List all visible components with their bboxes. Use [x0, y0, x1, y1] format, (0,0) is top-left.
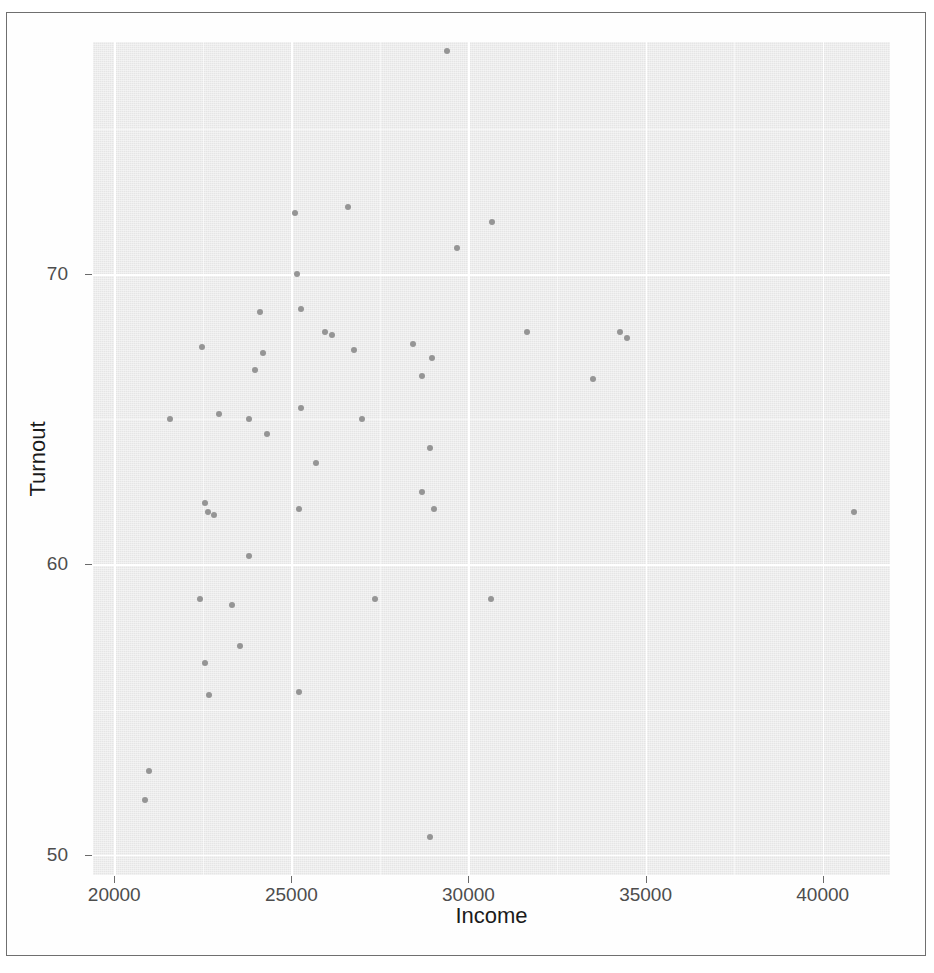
data-point [260, 350, 266, 356]
data-point [167, 416, 173, 422]
data-point [322, 329, 328, 335]
y-tick-mark [85, 564, 92, 565]
y-tick-mark [85, 274, 92, 275]
y-tick-mark [85, 855, 92, 856]
data-point [292, 210, 298, 216]
major-gridline-x [468, 42, 470, 875]
major-gridline-y [93, 855, 890, 857]
minor-gridline-y [93, 710, 890, 711]
y-axis-title: Turnout [20, 42, 54, 875]
major-gridline-y [93, 274, 890, 276]
data-point [296, 689, 302, 695]
major-gridline-x [823, 42, 825, 875]
data-point [429, 355, 435, 361]
data-point [345, 204, 351, 210]
data-point [211, 512, 217, 518]
major-gridline-x [291, 42, 293, 875]
data-point [624, 335, 630, 341]
data-point [427, 445, 433, 451]
data-point [524, 329, 530, 335]
x-tick-mark [114, 876, 115, 883]
data-point [298, 306, 304, 312]
x-tick-mark [291, 876, 292, 883]
minor-gridline-x [203, 42, 204, 875]
data-point [206, 692, 212, 698]
data-point [617, 329, 623, 335]
data-point [419, 489, 425, 495]
plot-panel [93, 42, 890, 875]
data-point [197, 596, 203, 602]
data-point [410, 341, 416, 347]
scanned-page: 2000025000300003500040000 506070 Income … [0, 0, 934, 973]
data-point [298, 405, 304, 411]
panel-paper-texture [93, 42, 890, 875]
data-point [359, 416, 365, 422]
y-axis-title-text: Turnout [24, 421, 50, 496]
x-axis-title: Income [93, 903, 890, 929]
data-point [246, 416, 252, 422]
data-point [419, 373, 425, 379]
minor-gridline-x [557, 42, 558, 875]
minor-gridline-x [734, 42, 735, 875]
data-point [237, 643, 243, 649]
data-point [199, 344, 205, 350]
data-point [296, 506, 302, 512]
minor-gridline-y [93, 129, 890, 130]
data-point [146, 768, 152, 774]
data-point [202, 660, 208, 666]
data-point [313, 460, 319, 466]
data-point [246, 553, 252, 559]
data-point [431, 506, 437, 512]
minor-gridline-x [380, 42, 381, 875]
data-point [351, 347, 357, 353]
data-point [489, 219, 495, 225]
scatter-plot-figure: 2000025000300003500040000 506070 Income … [0, 0, 934, 973]
data-point [216, 411, 222, 417]
data-point [294, 271, 300, 277]
data-point [142, 797, 148, 803]
data-point [372, 596, 378, 602]
x-tick-mark [823, 876, 824, 883]
data-point [264, 431, 270, 437]
data-point [444, 48, 450, 54]
major-gridline-y [93, 564, 890, 566]
data-point [202, 500, 208, 506]
data-point [488, 596, 494, 602]
minor-gridline-y [93, 419, 890, 420]
data-point [427, 834, 433, 840]
data-point [329, 332, 335, 338]
data-point [229, 602, 235, 608]
x-tick-mark [646, 876, 647, 883]
x-tick-mark [468, 876, 469, 883]
data-point [590, 376, 596, 382]
data-point [257, 309, 263, 315]
data-point [252, 367, 258, 373]
data-point [454, 245, 460, 251]
major-gridline-x [114, 42, 116, 875]
major-gridline-x [646, 42, 648, 875]
data-point [851, 509, 857, 515]
